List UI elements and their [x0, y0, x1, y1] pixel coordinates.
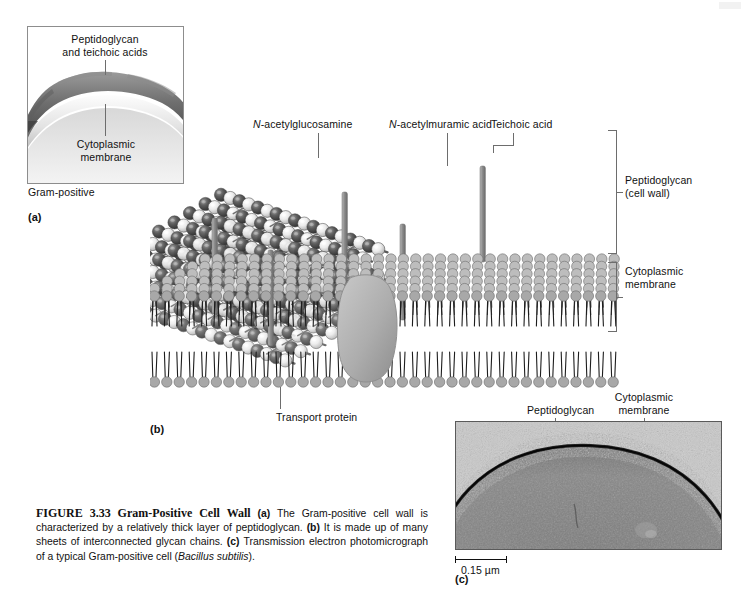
page-corner-mark [719, 2, 741, 9]
lipid-tail [487, 352, 488, 377]
lipid-tail [164, 352, 165, 377]
phospholipid-head-outer-leaflet [236, 291, 246, 301]
lipid-tail [503, 352, 504, 377]
caption-tag-a: (a) [258, 508, 271, 519]
lipid-tail [181, 352, 182, 377]
lipid-tail [429, 352, 430, 377]
lipid-tail [313, 352, 314, 377]
phospholipid-head-inner-leaflet [174, 377, 184, 387]
lipid-tail [540, 352, 541, 377]
lipid-tail [168, 352, 169, 377]
phospholipid-head-outer-leaflet [459, 291, 469, 301]
nag-rest: -acetylglucosamine [261, 118, 353, 130]
teichoic-leader-line-horizontal [493, 145, 514, 146]
lipid-tail [450, 352, 451, 377]
phospholipid-head-outer-leaflet [447, 291, 457, 301]
lipid-tail [230, 352, 231, 377]
lipid-tail [462, 301, 463, 326]
lipid-tail [611, 352, 612, 377]
bracket-peptidoglycan-label: Peptidoglycan (cell wall) [625, 174, 692, 199]
phospholipid-head-inner-leaflet [521, 377, 531, 387]
bracket-membrane-label-line2: membrane [625, 278, 676, 290]
phospholipid-head-inner-leaflet [496, 377, 506, 387]
phospholipid-head-outer-leaflet [248, 291, 258, 301]
lipid-tail [425, 352, 426, 377]
phospholipid-head-inner-leaflet [211, 377, 221, 387]
lipid-tail [598, 352, 599, 377]
phospholipid-head-outer-leaflet [546, 291, 556, 301]
phospholipid-head-inner-leaflet [583, 377, 593, 387]
lipid-tail [338, 352, 339, 377]
caption-tag-b: (b) [307, 522, 320, 533]
phospholipid-head-outer-leaflet [596, 291, 606, 301]
phospholipid-head-outer-leaflet [583, 291, 593, 301]
nam-leader-line [447, 133, 448, 166]
phospholipid-head-outer-leaflet [199, 291, 209, 301]
lipid-tail [602, 352, 603, 377]
phospholipid-head-inner-leaflet [224, 377, 234, 387]
panel-c-membrane-label-line2: membrane [619, 404, 670, 416]
panel-a-tag: (a) [28, 211, 41, 223]
teichoic-leader-line-down [493, 145, 494, 153]
lipid-tail [565, 352, 566, 377]
lipid-tail [226, 352, 227, 377]
phospholipid-head-outer-leaflet [521, 291, 531, 301]
lipid-tail [412, 301, 413, 326]
nam-rest: -acetylmuramic acid [397, 118, 492, 130]
transmission-electron-micrograph [456, 422, 721, 549]
panel-c-membrane-label-line1: Cytoplasmic [615, 391, 673, 403]
phospholipid-head-inner-leaflet [509, 377, 519, 387]
lipid-tail [425, 301, 426, 326]
phospholipid-head-inner-leaflet [310, 377, 320, 387]
lipid-tail [524, 301, 525, 326]
lipid-tail [578, 352, 579, 377]
phospholipid-head-outer-leaflet [298, 291, 308, 301]
figure-caption: FIGURE 3.33 Gram-Positive Cell Wall (a) … [36, 506, 428, 564]
lipid-tail [404, 352, 405, 377]
lipid-tail [437, 352, 438, 377]
lipid-tail [528, 352, 529, 377]
phospholipid-head-outer-leaflet [186, 291, 196, 301]
phospholipid-head-inner-leaflet [286, 377, 296, 387]
phospholipid-head-outer-leaflet [422, 291, 432, 301]
lipid-tail [330, 352, 331, 377]
phospholipid-head-inner-leaflet [335, 377, 345, 387]
phospholipid-head-inner-leaflet [261, 377, 271, 387]
lipid-tail [615, 352, 616, 377]
lipid-tail [326, 352, 327, 377]
caption-species-name: Bacillus subtilis [178, 551, 248, 562]
phospholipid-head-inner-leaflet [199, 377, 209, 387]
lipid-tail [400, 352, 401, 377]
phospholipid-head-outer-leaflet [509, 291, 519, 301]
lipid-tail [206, 352, 207, 377]
phospholipid-head-inner-leaflet [385, 377, 395, 387]
phospholipid-head-outer-leaflet [534, 291, 544, 301]
phospholipid-head-outer-leaflet [162, 291, 172, 301]
panel-c-tag: (c) [455, 573, 468, 585]
figure-title: Gram-Positive Cell Wall [118, 506, 251, 520]
panel-a-peptidoglycan-label-line1: Peptidoglycan [71, 33, 138, 45]
panel-a-peptidoglycan-leader-line [105, 60, 106, 75]
phospholipid-head-inner-leaflet [534, 377, 544, 387]
lipid-tail [574, 301, 575, 326]
panel-c-membrane-label: Cytoplasmic membrane [604, 391, 684, 416]
lipid-tail [466, 352, 467, 377]
phospholipid-head-inner-leaflet [484, 377, 494, 387]
sphere-n-acetylmuramic-acid [310, 335, 323, 348]
lipid-tail [462, 352, 463, 377]
bracket-peptidoglycan-label-line2: (cell wall) [625, 187, 670, 199]
phospholipid-head-outer-leaflet [558, 291, 568, 301]
lipid-tail [454, 352, 455, 377]
phospholipid-head-inner-leaflet [459, 377, 469, 387]
lipid-tail [243, 352, 244, 377]
lipid-tail [586, 352, 587, 377]
phospholipid-head-outer-leaflet [323, 291, 333, 301]
phospholipid-head-inner-leaflet [162, 377, 172, 387]
lipid-tail [536, 301, 537, 326]
lipid-tail [416, 352, 417, 377]
phospholipid-head-outer-leaflet [224, 291, 234, 301]
bracket-membrane-label-line1: Cytoplasmic [625, 265, 683, 277]
phospholipid-head-outer-leaflet [410, 291, 420, 301]
phospholipid-head-inner-leaflet [571, 377, 581, 387]
lipid-tail [450, 301, 451, 326]
